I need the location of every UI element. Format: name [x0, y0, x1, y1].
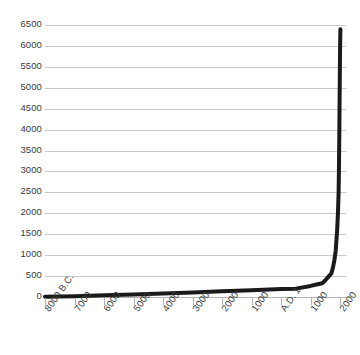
population-line-chart: 6500600055005000450040003500300025002000… [0, 0, 360, 355]
population-curve [45, 29, 340, 297]
